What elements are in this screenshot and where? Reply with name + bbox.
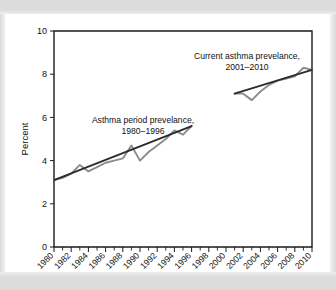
- x-tick-label-1994: 1994: [155, 250, 176, 271]
- x-tick-label-1998: 1998: [190, 250, 211, 271]
- y-axis-title: Percent: [19, 122, 30, 155]
- y-tick-label-10: 10: [37, 26, 47, 36]
- x-tick-label-2010: 2010: [293, 250, 314, 271]
- x-tick-label-1990: 1990: [121, 250, 142, 271]
- x-tick-label-2006: 2006: [258, 250, 279, 271]
- x-axis-tick-labels: 1980198219841986198819901992199419961998…: [35, 250, 314, 271]
- x-tick-label-1986: 1986: [86, 250, 107, 271]
- x-tick-label-2004: 2004: [241, 250, 262, 271]
- x-tick-label-2000: 2000: [207, 250, 228, 271]
- plot-frame: [54, 31, 312, 247]
- x-tick-label-1996: 1996: [172, 250, 193, 271]
- annotation-period-prevalence-line2: 1980–1996: [121, 126, 164, 136]
- annotation-current-prevalence: Current asthma prevelance, 2001–2010: [194, 51, 300, 72]
- y-tick-label-8: 8: [42, 69, 47, 79]
- y-tick-label-2: 2: [42, 199, 47, 209]
- x-tick-label-1980: 1980: [35, 250, 56, 271]
- y-tick-label-6: 6: [42, 113, 47, 123]
- y-tick-label-4: 4: [42, 156, 47, 166]
- x-tick-label-1988: 1988: [104, 250, 125, 271]
- x-tick-label-1984: 1984: [69, 250, 90, 271]
- x-tick-label-1982: 1982: [52, 250, 73, 271]
- series-trend-current-asthma-prevelance-trend-2001-2010: [235, 70, 312, 94]
- x-axis-ticks: [54, 247, 312, 252]
- x-tick-label-2002: 2002: [224, 250, 245, 271]
- asthma-prevalence-line-chart: 0246810 19801982198419861988199019921994…: [0, 0, 336, 290]
- y-tick-label-0: 0: [42, 242, 47, 252]
- annotation-current-prevalence-line2: 2001–2010: [225, 62, 268, 72]
- y-axis-tick-labels: 0246810: [37, 26, 47, 252]
- x-tick-label-1992: 1992: [138, 250, 159, 271]
- annotation-period-prevalence-line1: Asthma period prevelance,: [92, 115, 194, 125]
- annotation-current-prevalence-line1: Current asthma prevelance,: [194, 51, 300, 61]
- x-tick-label-2008: 2008: [276, 250, 297, 271]
- figure-root: 0246810 19801982198419861988199019921994…: [0, 0, 336, 290]
